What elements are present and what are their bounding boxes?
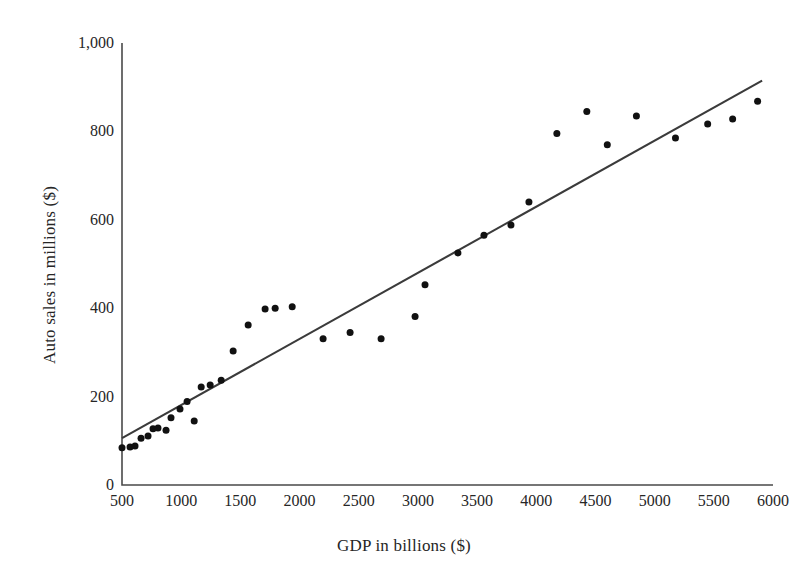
data-point: [289, 303, 296, 310]
data-point: [378, 335, 385, 342]
axis-lines: [122, 43, 773, 485]
data-point: [525, 199, 532, 206]
plot-axes: [122, 43, 773, 485]
data-point: [633, 112, 640, 119]
trend-line: [122, 81, 762, 439]
data-point: [480, 232, 487, 239]
regression-line: [122, 81, 762, 439]
data-point: [262, 306, 269, 313]
y-tick-label: 1,000: [54, 34, 114, 52]
y-axis-title: Auto sales in millions ($): [40, 95, 60, 455]
data-point: [184, 398, 191, 405]
y-tick-label: 800: [54, 122, 114, 140]
data-point: [207, 382, 214, 389]
data-point: [704, 120, 711, 127]
x-tick-label: 500: [92, 492, 152, 510]
x-tick-label: 5000: [625, 492, 685, 510]
x-tick-label: 3000: [388, 492, 448, 510]
data-point: [119, 444, 126, 451]
data-point: [507, 222, 514, 229]
x-axis-title: GDP in billions ($): [0, 536, 808, 556]
data-point: [191, 417, 198, 424]
x-tick-label: 6000: [743, 492, 803, 510]
data-point: [154, 424, 161, 431]
data-point: [754, 98, 761, 105]
x-tick-label: 4500: [565, 492, 625, 510]
y-tick-label: 400: [54, 299, 114, 317]
x-tick-label: 2000: [270, 492, 330, 510]
data-point: [132, 443, 139, 450]
data-point: [412, 313, 419, 320]
data-point: [198, 383, 205, 390]
data-point: [218, 377, 225, 384]
data-point: [168, 414, 175, 421]
y-tick-label: 200: [54, 388, 114, 406]
x-tick-label: 5500: [684, 492, 744, 510]
data-points: [119, 98, 762, 452]
y-tick-label: 600: [54, 211, 114, 229]
data-point: [729, 116, 736, 123]
scatter-chart-figure: 02004006008001,000 500100015002000250030…: [0, 0, 808, 584]
data-point: [320, 335, 327, 342]
data-point: [583, 108, 590, 115]
data-point: [272, 305, 279, 312]
data-point: [145, 432, 152, 439]
data-point: [553, 130, 560, 137]
x-tick-label: 4000: [506, 492, 566, 510]
data-point: [176, 405, 183, 412]
x-tick-label: 1500: [210, 492, 270, 510]
data-point: [347, 329, 354, 336]
data-point: [230, 348, 237, 355]
data-point: [138, 435, 145, 442]
data-point: [163, 427, 170, 434]
data-point: [604, 141, 611, 148]
data-point: [245, 321, 252, 328]
x-tick-label: 2500: [329, 492, 389, 510]
data-point: [422, 281, 429, 288]
x-tick-label: 1000: [151, 492, 211, 510]
data-point: [672, 135, 679, 142]
x-tick-label: 3500: [447, 492, 507, 510]
data-point: [454, 249, 461, 256]
